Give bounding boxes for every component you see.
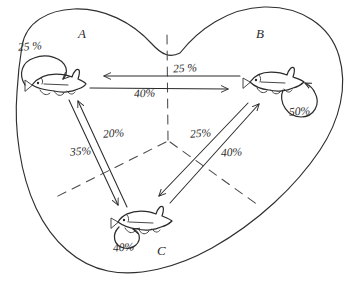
divider-b-c xyxy=(170,142,258,205)
flow-label-b-to-c: 25% xyxy=(190,127,212,140)
flow-c-to-b xyxy=(170,104,259,203)
self-loop-a xyxy=(22,56,67,85)
fish-movement-diagram: A B C 25 % 50% 40% 25 % 40% 20% 35% 25% … xyxy=(0,0,350,281)
region-label-a: A xyxy=(78,27,86,40)
flow-label-b-to-a: 25 % xyxy=(173,62,198,75)
lake-boundary xyxy=(16,7,342,273)
fish-region-c xyxy=(111,206,172,234)
self-loop-label-c: 40% xyxy=(113,241,135,254)
region-label-c: C xyxy=(157,244,166,257)
self-loop-label-b: 50% xyxy=(289,105,311,118)
self-loop-label-a: 25 % xyxy=(18,40,43,53)
flow-label-c-to-b: 40% xyxy=(221,146,243,159)
divider-a-b xyxy=(167,35,168,140)
flow-label-a-to-c: 35% xyxy=(70,145,92,158)
fish-region-a xyxy=(25,69,86,95)
flow-a-to-b xyxy=(90,88,228,89)
diagram-canvas xyxy=(0,0,350,281)
region-label-b: B xyxy=(256,27,264,40)
flow-label-c-to-a: 20% xyxy=(103,127,125,140)
flow-label-a-to-b: 40% xyxy=(134,87,156,100)
fish-region-b xyxy=(243,67,304,94)
